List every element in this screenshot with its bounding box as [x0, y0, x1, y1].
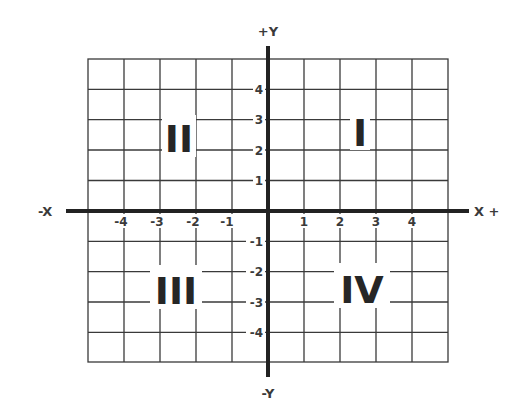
x-tick-label: -2	[186, 215, 199, 229]
y-tick-label: 2	[255, 144, 263, 158]
y-tick-label: 1	[255, 174, 263, 188]
x-tick-label: 4	[408, 215, 416, 229]
axis-label-neg-y: -Y	[262, 386, 275, 401]
x-tick-label: -1	[220, 215, 233, 229]
y-tick-label: 3	[255, 113, 263, 127]
x-tick-label: -4	[114, 215, 127, 229]
quadrant-label-iii: III	[155, 269, 197, 313]
coordinate-plane-diagram: +Y -Y -X X + -4 -3 -2 -1 1 2 3 4 4 3 2 1…	[0, 0, 526, 415]
axis-label-pos-y: +Y	[258, 24, 279, 39]
y-tick-label: -1	[250, 235, 263, 249]
x-tick-label: 3	[372, 215, 380, 229]
axes	[66, 46, 469, 377]
quadrant-label-iv: IV	[340, 268, 384, 312]
quadrant-label-i: I	[353, 111, 367, 155]
x-tick-label: 1	[300, 215, 308, 229]
quadrant-label-ii: II	[165, 117, 193, 161]
axis-label-pos-x: X +	[474, 204, 499, 219]
x-tick-labels: -4 -3 -2 -1 1 2 3 4	[114, 215, 416, 229]
axis-label-neg-x: -X	[38, 204, 52, 219]
y-tick-label: 4	[255, 83, 263, 97]
x-tick-label: -3	[150, 215, 163, 229]
y-tick-label: -3	[250, 296, 263, 310]
x-tick-label: 2	[336, 215, 344, 229]
coordinate-plane-svg: +Y -Y -X X + -4 -3 -2 -1 1 2 3 4 4 3 2 1…	[0, 0, 526, 415]
y-tick-label: -4	[250, 326, 263, 340]
y-tick-label: -2	[250, 265, 263, 279]
